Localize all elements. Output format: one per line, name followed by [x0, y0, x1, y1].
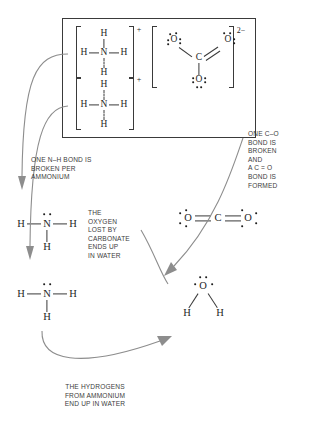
arrowhead-icon	[164, 262, 177, 276]
bracket-right-icon	[129, 78, 134, 130]
lone-pair-dot	[175, 32, 177, 34]
lone-pair-dot	[49, 213, 51, 215]
lone-pair-dot	[43, 213, 45, 215]
bond-n-h-left	[89, 52, 99, 53]
lone-pair-dot	[185, 209, 187, 211]
lone-pair-dot	[223, 32, 225, 34]
carbonate-o-bottom: O	[196, 75, 203, 85]
lone-pair-dot	[204, 81, 206, 83]
arrowhead-icon	[18, 176, 26, 190]
lone-pair-dot	[241, 225, 243, 227]
bond-c-o-right-double-a	[225, 215, 241, 216]
diagram-canvas: H H N H H + H H N H H + O	[0, 0, 314, 429]
ammonia-molecule-1: N H H H	[12, 205, 82, 251]
carbonate-ion: O C O O 2−	[152, 26, 248, 88]
bond-c-o-bottom	[198, 63, 199, 75]
ammonium-1-h-left: H	[81, 48, 88, 58]
ammonium-2-h-left: H	[81, 100, 88, 110]
ammonium-1-h-bottom: H	[101, 68, 108, 78]
ammonia-2-h-left: H	[17, 289, 25, 300]
bond-c-o-left-double-b	[195, 220, 211, 221]
ammonia-1-h-left: H	[17, 219, 25, 230]
carbonate-carbon: C	[196, 53, 202, 63]
lone-pair-dot	[211, 283, 213, 285]
ammonium-1-charge: +	[137, 26, 142, 34]
ammonium-1-h-right: H	[121, 48, 128, 58]
water-h-left: H	[183, 308, 191, 319]
ammonium-1-nitrogen: N	[101, 48, 108, 58]
ammonia-2-h-right: H	[69, 289, 77, 300]
bond-c-o-left-double-a	[195, 215, 211, 216]
lone-pair-dot	[179, 222, 181, 224]
ammonia-1-h-right: H	[69, 219, 77, 230]
lone-pair-dot	[167, 43, 169, 45]
annotation-middle: THE OXYGEN LOST BY CARBONATE ENDS UP IN …	[88, 209, 146, 261]
lone-pair-dot	[233, 42, 235, 44]
bond-n-h-left	[27, 223, 41, 224]
lone-pair-dot	[205, 276, 207, 278]
ammonium-2-nitrogen: N	[101, 100, 108, 110]
lone-pair-dot	[192, 77, 194, 79]
co2-o-right: O	[244, 213, 252, 224]
ammonium-ion-2: H H N H H +	[70, 78, 146, 130]
bond-c-o-left	[179, 47, 193, 57]
bond-n-h-right	[53, 293, 67, 294]
lone-pair-dot	[255, 212, 257, 214]
lone-pair-dot	[185, 225, 187, 227]
bond-c-o-right-double-b	[225, 220, 241, 221]
lone-pair-dot	[194, 283, 196, 285]
bond-n-h-right	[109, 104, 119, 105]
lone-pair-dot	[179, 212, 181, 214]
water-molecule: O H H	[176, 275, 236, 321]
bond-n-h-right	[109, 52, 119, 53]
ammonium-ion-1: H H N H H +	[70, 26, 146, 78]
bond-n-h-right	[53, 223, 67, 224]
ammonium-2-charge: +	[137, 76, 142, 84]
lone-pair-dot	[233, 38, 235, 40]
ammonium-1-h-top: H	[101, 29, 108, 39]
arrow-hydrogens-to-water	[42, 331, 160, 358]
carbonate-charge: 2−	[237, 27, 246, 35]
bond-n-h-left	[27, 293, 41, 294]
lone-pair-dot	[179, 38, 181, 40]
ammonium-2-h-bottom: H	[101, 120, 108, 130]
carbonate-o-left: O	[171, 35, 178, 45]
lone-pair-dot	[200, 86, 202, 88]
lone-pair-dot	[241, 209, 243, 211]
lone-pair-dot	[199, 276, 201, 278]
water-h-right: H	[216, 308, 224, 319]
lone-pair-dot	[167, 39, 169, 41]
carbonate-o-right: O	[225, 35, 232, 45]
lone-pair-dot	[179, 42, 181, 44]
lone-pair-dot	[192, 81, 194, 83]
co2-carbon: C	[214, 213, 221, 224]
bracket-right-icon	[129, 26, 134, 78]
annotation-bottom: THE HYDROGENS FROM AMMONIUM END UP IN WA…	[25, 383, 165, 409]
carbon-dioxide-molecule: O C O	[178, 207, 262, 233]
co2-o-left: O	[184, 213, 192, 224]
ammonia-molecule-2: N H H H	[12, 275, 82, 321]
lone-pair-dot	[204, 77, 206, 79]
water-oxygen: O	[199, 281, 207, 292]
lone-pair-dot	[49, 283, 51, 285]
annotation-left: ONE N–H BOND IS BROKEN PER AMMONIUM	[31, 156, 123, 182]
annotation-right: ONE C–O BOND IS BROKEN AND A C = O BOND …	[248, 130, 308, 190]
ammonia-1-nitrogen: N	[43, 219, 51, 230]
lone-pair-dot	[43, 283, 45, 285]
ammonia-2-nitrogen: N	[43, 289, 51, 300]
ammonium-2-h-right: H	[121, 100, 128, 110]
arrowhead-icon	[157, 336, 172, 346]
ammonia-1-h-bottom: H	[43, 242, 51, 253]
lone-pair-dot	[196, 86, 198, 88]
ammonia-2-h-bottom: H	[43, 312, 51, 323]
arrow-carbonate-to-water	[174, 138, 243, 266]
lone-pair-dot	[229, 32, 231, 34]
lone-pair-dot	[255, 222, 257, 224]
bond-n-h-left	[89, 104, 99, 105]
lone-pair-dot	[169, 33, 171, 35]
ammonium-2-h-top: H	[101, 80, 108, 90]
bracket-left-icon	[152, 26, 157, 88]
